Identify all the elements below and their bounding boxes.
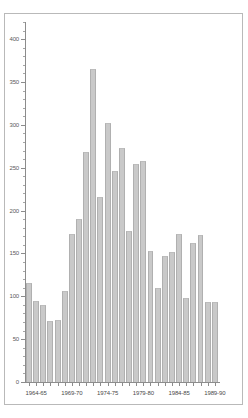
bar — [176, 234, 182, 382]
bar — [69, 234, 75, 382]
x-axis-tick — [215, 383, 216, 386]
y-axis-tick — [21, 125, 25, 126]
y-axis-minor-tick — [23, 91, 25, 92]
bar — [212, 302, 218, 382]
y-axis-minor-tick — [23, 262, 25, 263]
y-axis-tick — [21, 39, 25, 40]
x-axis-tick — [50, 383, 51, 386]
figure-canvas: 050100150200250300350400 1964-651969-701… — [0, 0, 248, 418]
x-axis-tick — [143, 383, 144, 386]
x-axis-tick — [108, 383, 109, 386]
y-axis-minor-tick — [23, 305, 25, 306]
x-axis-tick-label: 1974-75 — [97, 390, 118, 397]
y-axis-minor-tick — [23, 348, 25, 349]
y-axis-minor-tick — [23, 322, 25, 323]
y-axis-minor-tick — [23, 219, 25, 220]
y-axis-tick-label: 0 — [0, 379, 19, 385]
y-axis-minor-tick — [23, 331, 25, 332]
bar-series — [26, 22, 219, 382]
y-axis-minor-tick — [23, 56, 25, 57]
y-axis-tick — [21, 382, 25, 383]
x-axis-tick — [129, 383, 130, 386]
y-axis-minor-tick — [23, 48, 25, 49]
x-axis-tick-label: 1989-90 — [204, 390, 225, 397]
x-axis-tick — [29, 383, 30, 386]
bar — [126, 231, 132, 382]
x-axis-tick-label: 1969-70 — [61, 390, 82, 397]
x-axis-tick — [72, 383, 73, 386]
y-axis-minor-tick — [23, 245, 25, 246]
y-axis-minor-tick — [23, 65, 25, 66]
bar — [33, 301, 39, 382]
y-axis-tick-label: 300 — [0, 122, 19, 128]
y-axis-tick-label: 350 — [0, 79, 19, 85]
x-axis-tick — [122, 383, 123, 386]
bar — [205, 302, 211, 382]
bar — [97, 197, 103, 382]
x-axis-tick-label: 1984-85 — [168, 390, 189, 397]
bar — [169, 252, 175, 382]
bar — [140, 161, 146, 382]
bar — [55, 320, 61, 382]
x-axis-tick — [201, 383, 202, 386]
x-axis-tick — [208, 383, 209, 386]
bar — [26, 283, 32, 382]
y-axis-minor-tick — [23, 151, 25, 152]
y-axis-tick — [21, 339, 25, 340]
y-axis-minor-tick — [23, 365, 25, 366]
y-axis-tick-label: 400 — [0, 36, 19, 42]
x-axis-tick-label: 1979-80 — [133, 390, 154, 397]
bar — [105, 123, 111, 382]
y-axis-minor-tick — [23, 22, 25, 23]
y-axis-tick — [21, 296, 25, 297]
y-axis-minor-tick — [23, 116, 25, 117]
y-axis-minor-tick — [23, 185, 25, 186]
x-axis-tick — [165, 383, 166, 386]
y-axis-minor-tick — [23, 356, 25, 357]
x-axis-tick — [58, 383, 59, 386]
y-axis-tick-label: 150 — [0, 250, 19, 256]
bar — [190, 243, 196, 382]
bar — [133, 164, 139, 382]
bar — [198, 235, 204, 382]
y-axis-minor-tick — [23, 288, 25, 289]
x-axis-tick — [100, 383, 101, 386]
y-axis-minor-tick — [23, 313, 25, 314]
x-axis-tick — [158, 383, 159, 386]
x-axis-tick — [150, 383, 151, 386]
y-axis-minor-tick — [23, 279, 25, 280]
x-axis-tick — [115, 383, 116, 386]
bar — [155, 288, 161, 382]
y-axis-minor-tick — [23, 73, 25, 74]
bar — [148, 251, 154, 382]
y-axis-minor-tick — [23, 108, 25, 109]
x-axis-tick — [179, 383, 180, 386]
bar — [40, 305, 46, 382]
y-axis-minor-tick — [23, 176, 25, 177]
bar — [62, 291, 68, 382]
y-axis-minor-tick — [23, 228, 25, 229]
x-axis-tick — [79, 383, 80, 386]
y-axis-minor-tick — [23, 193, 25, 194]
bar — [47, 321, 53, 382]
y-axis-minor-tick — [23, 373, 25, 374]
y-axis-tick-label: 100 — [0, 293, 19, 299]
y-axis-minor-tick — [23, 99, 25, 100]
y-axis-tick — [21, 82, 25, 83]
bar — [76, 219, 82, 382]
y-axis-tick-label: 200 — [0, 208, 19, 214]
bar — [83, 152, 89, 382]
y-axis-minor-tick — [23, 159, 25, 160]
y-axis-tick — [21, 211, 25, 212]
bar — [90, 69, 96, 382]
x-axis-tick — [136, 383, 137, 386]
x-axis-tick — [36, 383, 37, 386]
bar — [162, 256, 168, 382]
x-axis-tick — [172, 383, 173, 386]
bar — [183, 298, 189, 382]
x-axis-tick — [193, 383, 194, 386]
x-axis-tick-label: 1964-65 — [25, 390, 46, 397]
x-axis-tick — [86, 383, 87, 386]
x-axis-tick — [65, 383, 66, 386]
y-axis-minor-tick — [23, 202, 25, 203]
